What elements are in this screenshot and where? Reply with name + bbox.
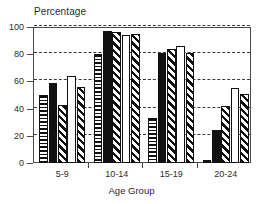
x-tick [88, 163, 89, 168]
bar [131, 34, 140, 163]
y-tick-label: 20 [0, 131, 24, 141]
bar-chart: Percentage 020406080100 5-910-1415-1920-… [0, 0, 263, 204]
x-tick-label-10-14: 10-14 [105, 169, 128, 179]
bar [186, 53, 195, 163]
gridline-100 [34, 25, 250, 26]
bar [94, 54, 103, 163]
bar [167, 49, 176, 163]
y-tick-label: 100 [0, 22, 24, 32]
bar [158, 53, 167, 163]
bar [176, 46, 185, 163]
x-tick-label-20-24: 20-24 [214, 169, 237, 179]
bar [49, 83, 58, 163]
x-tick-label-15-19: 15-19 [160, 169, 183, 179]
y-tick-0 [27, 163, 33, 164]
bar [67, 76, 76, 163]
y-tick-label: 40 [0, 104, 24, 114]
bar [212, 130, 221, 163]
y-tick-label: 0 [0, 158, 24, 168]
chart-title: Percentage [34, 6, 86, 17]
bars-layer [33, 27, 251, 163]
bar [148, 118, 157, 163]
y-tick-label: 80 [0, 49, 24, 59]
bar [58, 105, 67, 163]
x-tick [197, 163, 198, 168]
y-tick-label: 60 [0, 76, 24, 86]
bar [39, 95, 48, 163]
bar [203, 160, 212, 163]
x-tick-label-5-9: 5-9 [56, 169, 69, 179]
bar [103, 31, 112, 163]
bar [112, 32, 121, 163]
x-tick [142, 163, 143, 168]
bar [240, 94, 249, 163]
bar [221, 106, 230, 163]
bar [122, 35, 131, 163]
bar [77, 87, 86, 163]
bar [231, 88, 240, 163]
x-axis-title: Age Group [0, 185, 263, 196]
